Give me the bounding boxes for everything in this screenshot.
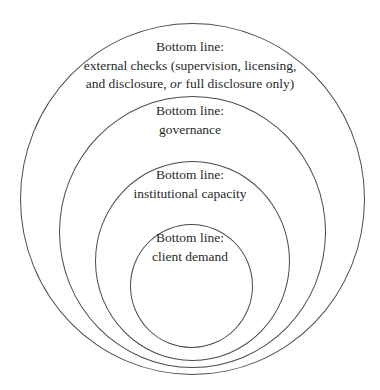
label-client-demand: Bottom line: client demand bbox=[0, 229, 380, 266]
label-title: Bottom line: bbox=[0, 38, 380, 57]
label-line: institutional capacity bbox=[0, 185, 380, 204]
label-governance: Bottom line: governance bbox=[0, 102, 380, 139]
label-external-checks: Bottom line: external checks (supervisio… bbox=[0, 38, 380, 94]
label-line: external checks (supervision, licensing, bbox=[0, 57, 380, 76]
label-line: governance bbox=[0, 121, 380, 140]
label-line: client demand bbox=[0, 248, 380, 267]
label-title: Bottom line: bbox=[0, 229, 380, 248]
label-institutional-capacity: Bottom line: institutional capacity bbox=[0, 166, 380, 203]
label-title: Bottom line: bbox=[0, 166, 380, 185]
label-title: Bottom line: bbox=[0, 102, 380, 121]
label-line: and disclosure, or full disclosure only) bbox=[0, 75, 380, 94]
